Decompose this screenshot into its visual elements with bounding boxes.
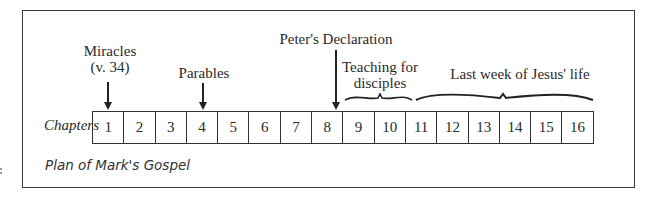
scan-artifact (0, 168, 6, 174)
chapter-box-13: 13 (469, 112, 500, 143)
chapter-box-15: 15 (531, 112, 562, 143)
brace-teaching-icon (344, 92, 414, 104)
label-teaching-line1: Teaching for (340, 59, 420, 75)
chapter-box-14: 14 (500, 112, 531, 143)
chapter-box-6: 6 (249, 112, 280, 143)
label-teaching-for-disciples: Teaching for disciples (340, 59, 420, 91)
label-miracles-line2: (v. 34) (80, 59, 140, 75)
label-miracles-line1: Miracles (80, 43, 140, 59)
chapters-row: 1 2 3 4 5 6 7 8 9 10 11 12 13 14 15 16 (92, 111, 594, 144)
chapter-box-11: 11 (406, 112, 437, 143)
chapter-box-3: 3 (156, 112, 187, 143)
chapter-box-9: 9 (343, 112, 374, 143)
chapter-box-5: 5 (218, 112, 249, 143)
label-peters-declaration: Peter's Declaration (276, 31, 396, 47)
label-teaching-line2: disciples (340, 75, 420, 91)
chapters-row-label: Chapters (44, 117, 99, 134)
chapter-box-12: 12 (437, 112, 468, 143)
chapter-box-7: 7 (281, 112, 312, 143)
chapter-box-16: 16 (562, 112, 593, 143)
diagram-caption: Plan of Mark's Gospel (45, 157, 190, 173)
label-last-week: Last week of Jesus' life (445, 66, 595, 82)
label-parables: Parables (174, 65, 234, 81)
chapter-box-2: 2 (124, 112, 155, 143)
label-miracles: Miracles (v. 34) (80, 43, 140, 75)
chapter-box-4: 4 (187, 112, 218, 143)
chapter-box-10: 10 (375, 112, 406, 143)
chapter-box-8: 8 (312, 112, 343, 143)
chapter-box-1: 1 (93, 112, 124, 143)
brace-last-week-icon (415, 92, 595, 104)
